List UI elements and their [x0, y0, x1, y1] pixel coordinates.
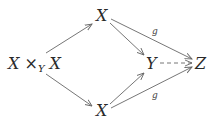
node-middle-y: Y	[146, 54, 158, 73]
label-g-top: g	[152, 26, 158, 36]
node-right-z: Z	[194, 54, 207, 73]
node-bottom-x: X	[94, 101, 108, 120]
node-top-x: X	[94, 6, 108, 25]
node-pullback-base: X ×	[6, 54, 38, 73]
label-g-bottom: g	[152, 90, 158, 100]
node-pullback-tail: X	[45, 54, 62, 73]
commutative-diagram: g g X ×Y X X X Y Z	[0, 0, 214, 122]
node-pullback: X ×Y X	[6, 54, 62, 74]
edge-bottom-to-right	[111, 67, 192, 108]
edge-top-to-middle	[110, 23, 144, 55]
edge-pullback-to-top	[46, 24, 92, 53]
edge-bottom-to-middle	[110, 73, 144, 104]
edge-pullback-to-bottom	[46, 74, 92, 106]
edge-top-to-right	[111, 19, 192, 59]
